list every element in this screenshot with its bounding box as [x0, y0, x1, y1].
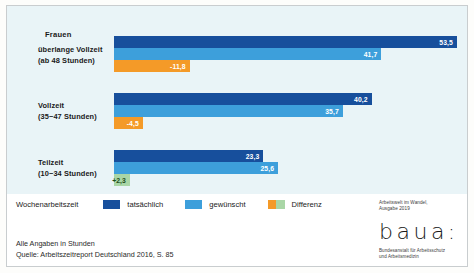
bar-diff-neg: -4,5	[114, 117, 143, 129]
footnote: Alle Angaben in Stunden Quelle: Arbeitsz…	[16, 239, 173, 260]
legend: Wochenarbeitszeit tatsächlichgewünschtDi…	[16, 200, 344, 209]
legend-label: Differenz	[292, 200, 322, 209]
footnote-source: Quelle: Arbeitszeitreport Deutschland 20…	[16, 250, 173, 261]
bar-value-label: -11,8	[170, 63, 186, 70]
group-label: Vollzeit(35−47 Stunden)	[38, 100, 110, 122]
group-label: überlange Vollzeit(ab 48 Stunden)	[38, 44, 110, 66]
bar-desired: 35,7	[114, 105, 343, 117]
bar-diff-neg: -11,8	[114, 60, 190, 72]
bar-value-label: 25,6	[260, 165, 274, 172]
legend-swatch-icon	[185, 200, 202, 209]
legend-label: gewünscht	[209, 200, 245, 209]
logo-subtitle: Bundesanstalt für Arbeitsschutz und Arbe…	[379, 248, 471, 260]
bar-diff-pos: +2,3	[114, 174, 130, 186]
plot-panel: Frauen überlange Vollzeit(ab 48 Stunden)…	[7, 6, 467, 194]
group-label-main: überlange Vollzeit	[38, 45, 103, 54]
group-label-main: Vollzeit	[38, 101, 64, 110]
legend-swatch-left	[268, 200, 277, 209]
legend-swatch-icon	[103, 200, 120, 209]
group-label-sub: (10−34 Stunden)	[38, 168, 110, 179]
bar-value-label: 53,5	[439, 39, 453, 46]
bar-desired: 25,6	[114, 162, 278, 174]
legend-swatch-icon	[268, 200, 285, 209]
bar-value-label: 35,7	[325, 108, 339, 115]
group-label: Teilzeit(10−34 Stunden)	[38, 157, 110, 179]
credit-edition: Arbeitswelt im Wandel, Ausgabe 2019	[379, 200, 471, 212]
credit-block: Arbeitswelt im Wandel, Ausgabe 2019 baua…	[379, 200, 471, 260]
chart-page: Frauen überlange Vollzeit(ab 48 Stunden)…	[0, 0, 474, 273]
group-label-main: Teilzeit	[38, 158, 63, 167]
bar-value-label: +2,3	[112, 177, 126, 184]
footnote-unit: Alle Angaben in Stunden	[16, 239, 173, 250]
legend-swatch-right	[276, 200, 285, 209]
credit-edition-line2: Ausgabe 2019	[379, 206, 471, 212]
legend-label: tatsächlich	[127, 200, 163, 209]
legend-items: tatsächlichgewünschtDifferenz	[103, 200, 343, 209]
logo-subtitle-line2: und Arbeitsmedizin	[379, 254, 471, 260]
legend-title: Wochenarbeitszeit	[16, 200, 78, 209]
bar-actual: 53,5	[114, 36, 457, 48]
group-label-sub: (35−47 Stunden)	[38, 111, 110, 122]
bar-desired: 41,7	[114, 48, 381, 60]
bar-value-label: 23,3	[246, 153, 260, 160]
bar-actual: 40,2	[114, 93, 372, 105]
legend-item-differenz: Differenz	[268, 200, 322, 209]
bar-value-label: 40,2	[354, 96, 368, 103]
legend-item-tatsächlich: tatsächlich	[103, 200, 163, 209]
bar-value-label: -4,5	[127, 120, 139, 127]
page-title: Frauen	[45, 30, 72, 39]
baua-logo: baua:	[379, 221, 471, 243]
group-label-sub: (ab 48 Stunden)	[38, 55, 110, 66]
bar-actual: 23,3	[114, 150, 263, 162]
legend-item-gewünscht: gewünscht	[185, 200, 245, 209]
bar-value-label: 41,7	[364, 51, 378, 58]
